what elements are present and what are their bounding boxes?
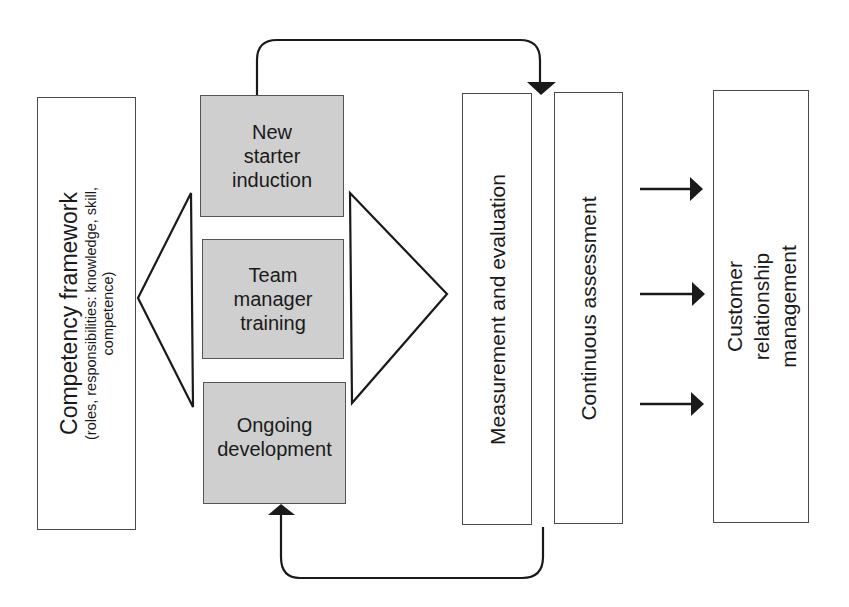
connectors-layer — [0, 0, 849, 607]
right-chevron-icon — [350, 193, 447, 403]
bottom-feedback-connector — [281, 515, 543, 578]
bottom-arrowhead-icon — [268, 504, 295, 515]
arrowhead-right-icon — [690, 177, 703, 201]
arrowhead-right-icon — [692, 282, 705, 306]
arrow-to-crm-1 — [640, 177, 703, 201]
left-chevron-icon — [138, 193, 193, 407]
arrow-to-crm-3 — [640, 392, 704, 416]
arrowhead-right-icon — [691, 392, 704, 416]
arrow-to-crm-2 — [640, 282, 705, 306]
competency-diagram: Competency framework (roles, responsibil… — [0, 0, 849, 607]
top-feedback-connector — [257, 40, 540, 95]
top-arrowhead-icon — [527, 82, 556, 95]
